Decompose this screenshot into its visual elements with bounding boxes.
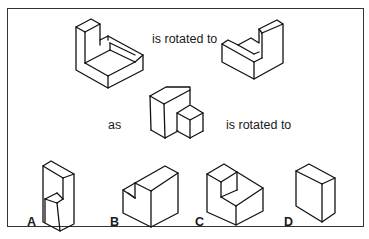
block-with-cube-figure [150, 87, 203, 138]
option-d-figure [296, 164, 335, 222]
l-block-rotated-figure [222, 20, 283, 79]
option-c-figure [207, 164, 263, 225]
shapes-canvas [0, 0, 369, 239]
option-a-figure [43, 161, 74, 231]
l-block-original-figure [76, 19, 143, 88]
option-b-figure [123, 166, 178, 227]
